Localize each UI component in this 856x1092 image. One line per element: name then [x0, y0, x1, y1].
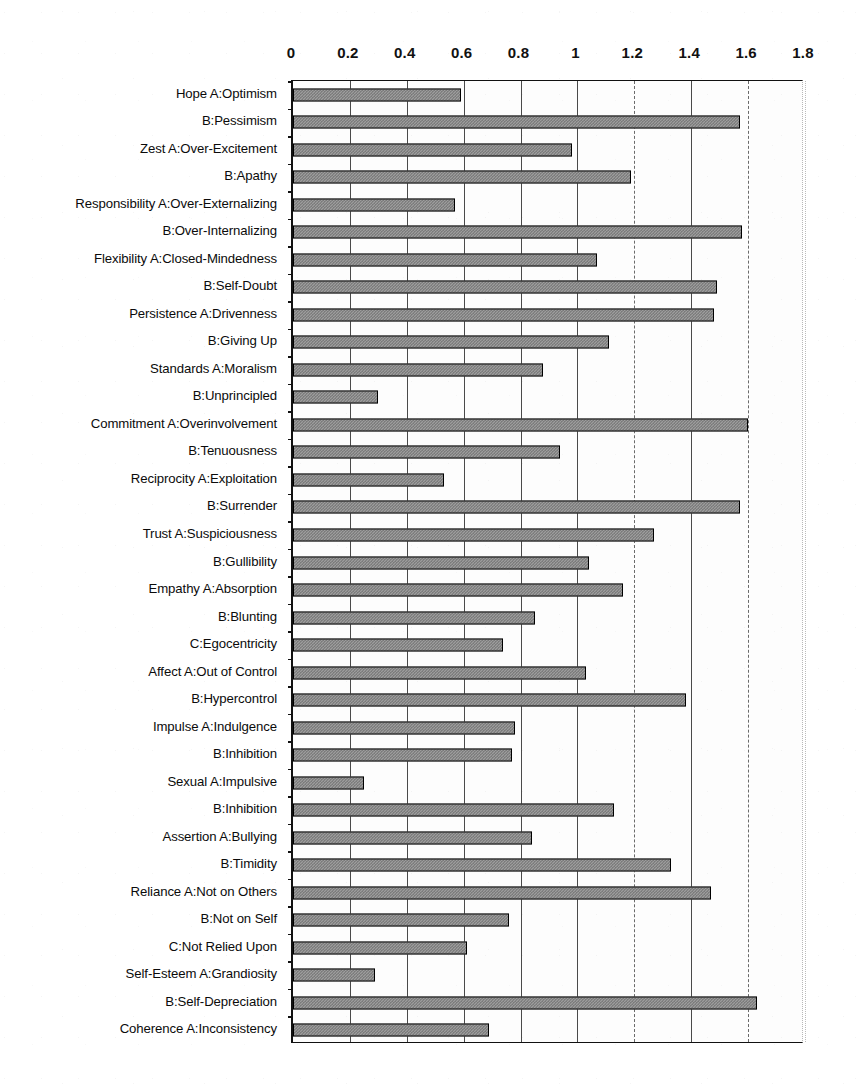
y-category-label: Commitment A:Overinvolvement	[91, 417, 277, 431]
bar	[293, 914, 509, 927]
bar	[293, 446, 560, 459]
bar	[293, 611, 535, 624]
y-axis-tick-mark	[288, 796, 293, 798]
bar	[293, 584, 623, 597]
y-category-label: Impulse A:Indulgence	[153, 720, 277, 734]
y-category-label: B:Self-Depreciation	[165, 995, 277, 1009]
y-axis-tick-mark	[288, 439, 293, 441]
y-axis-tick-mark	[288, 1016, 293, 1018]
x-tick-label: 0.8	[508, 44, 529, 62]
y-category-label: Standards A:Moralism	[150, 362, 277, 376]
y-axis-tick-mark	[288, 851, 293, 853]
y-axis-tick-mark	[288, 411, 293, 413]
bar	[293, 391, 378, 404]
bar	[293, 859, 671, 872]
bar	[293, 694, 686, 707]
bar	[293, 969, 375, 982]
y-category-label: B:Apathy	[224, 169, 277, 183]
y-axis-tick-mark	[288, 109, 293, 111]
y-axis-tick-mark	[288, 934, 293, 936]
y-axis-tick-mark	[288, 631, 293, 633]
bar	[293, 226, 742, 239]
bar	[293, 501, 740, 514]
y-axis-tick-mark	[288, 906, 293, 908]
bar	[293, 171, 631, 184]
bar	[293, 336, 609, 349]
gridline	[748, 81, 750, 1042]
y-category-label: Reciprocity A:Exploitation	[131, 472, 277, 486]
y-category-label: B:Blunting	[218, 610, 277, 624]
y-category-label: Self-Esteem A:Grandiosity	[126, 967, 277, 981]
y-category-label: B:Unprincipled	[193, 389, 277, 403]
plot-area	[291, 80, 803, 1043]
y-category-label: B:Hypercontrol	[191, 692, 277, 706]
y-category-label: B:Over-Internalizing	[162, 224, 277, 238]
y-category-label: Affect A:Out of Control	[148, 665, 277, 679]
y-category-label: B:Tenuousness	[188, 444, 277, 458]
x-tick-label: 1.2	[622, 44, 643, 62]
bar	[293, 198, 455, 211]
y-category-label: Hope A:Optimism	[176, 87, 277, 101]
y-axis-tick-mark	[288, 576, 293, 578]
x-tick-label: 1.4	[678, 44, 699, 62]
y-axis-tick-mark	[288, 769, 293, 771]
y-category-label: Coherence A:Inconsistency	[120, 1022, 277, 1036]
y-axis-tick-mark	[288, 301, 293, 303]
y-category-label: C:Egocentricity	[190, 637, 277, 651]
bar	[293, 721, 515, 734]
y-axis-tick-mark	[288, 989, 293, 991]
bar	[293, 749, 512, 762]
bar	[293, 143, 572, 156]
y-axis-tick-mark	[288, 961, 293, 963]
bar	[293, 1024, 489, 1037]
y-category-label: Responsibility A:Over-Externalizing	[75, 197, 277, 211]
y-category-label: Flexibility A:Closed-Mindedness	[94, 252, 277, 266]
x-tick-label: 1.6	[735, 44, 756, 62]
bar	[293, 88, 461, 101]
x-tick-label: 1	[571, 44, 580, 62]
y-axis-tick-mark	[288, 274, 293, 276]
bar	[293, 886, 711, 899]
bar	[293, 996, 757, 1009]
bar	[293, 639, 503, 652]
y-category-label: C:Not Relied Upon	[169, 940, 277, 954]
bar	[293, 941, 467, 954]
x-tick-label: 0.2	[337, 44, 358, 62]
y-axis-tick-mark	[288, 824, 293, 826]
y-category-label: Reliance A:Not on Others	[131, 885, 277, 899]
y-axis-tick-mark	[288, 81, 293, 83]
bar	[293, 253, 597, 266]
bar	[293, 116, 740, 129]
x-tick-label: 0.6	[451, 44, 472, 62]
bar	[293, 804, 614, 817]
y-category-label: B:Pessimism	[202, 114, 277, 128]
bar	[293, 473, 444, 486]
bar	[293, 363, 543, 376]
gridline	[805, 81, 807, 1042]
y-category-label: Persistence A:Drivenness	[129, 307, 277, 321]
bar	[293, 281, 717, 294]
y-category-label: B:Timidity	[221, 857, 277, 871]
bar	[293, 776, 364, 789]
y-axis-tick-mark	[288, 714, 293, 716]
y-axis-tick-mark	[288, 686, 293, 688]
y-category-label: B:Gullibility	[213, 555, 277, 569]
y-category-label: B:Self-Doubt	[203, 279, 277, 293]
bar	[293, 831, 532, 844]
y-axis-tick-mark	[288, 466, 293, 468]
bar	[293, 308, 714, 321]
y-category-label: B:Not on Self	[201, 912, 277, 926]
x-tick-label: 1.8	[792, 44, 813, 62]
y-category-label: Trust A:Suspiciousness	[143, 527, 277, 541]
y-axis-tick-mark	[288, 219, 293, 221]
y-category-label: B:Giving Up	[208, 334, 277, 348]
y-axis-tick-mark	[288, 246, 293, 248]
y-axis-tick-mark	[288, 549, 293, 551]
bar	[293, 528, 654, 541]
y-axis-tick-mark	[288, 329, 293, 331]
y-category-label: Assertion A:Bullying	[162, 830, 277, 844]
y-axis-tick-mark	[288, 384, 293, 386]
bar-chart: 00.20.40.60.811.21.41.61.8 Hope A:Optimi…	[0, 0, 856, 1092]
y-axis-tick-mark	[288, 191, 293, 193]
y-category-label: B:Inhibition	[213, 802, 277, 816]
